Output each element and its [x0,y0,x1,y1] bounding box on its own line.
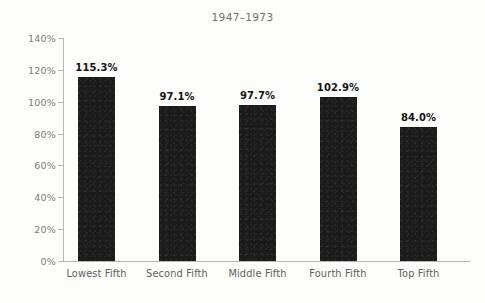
bar-value-label: 97.7% [218,90,298,101]
x-axis-category-label: Middle Fifth [213,268,303,279]
y-axis-tick-mark [58,261,63,262]
x-axis-line [63,261,470,262]
y-axis-tick-mark [58,165,63,166]
y-axis-tick-label: 100% [10,96,56,107]
bar [400,127,437,261]
y-axis-tick-mark [58,38,63,39]
bar [159,106,196,261]
y-axis-tick-mark [58,197,63,198]
bar [239,105,276,261]
bar-value-label: 115.3% [57,62,137,73]
x-axis-category-label: Top Fifth [374,268,464,279]
y-axis-tick-label: 140% [10,33,56,44]
bar [320,97,357,261]
y-axis-tick-label: 40% [10,192,56,203]
x-axis-category-label: Lowest Fifth [52,268,142,279]
y-axis-tick-label: 60% [10,160,56,171]
y-axis-tick-mark [58,102,63,103]
bar-chart: 1947–1973 0%20%40%60%80%100%120%140% 115… [0,0,485,303]
bar-value-label: 84.0% [379,112,459,123]
y-axis-tick-mark [58,134,63,135]
bar [78,77,115,261]
y-axis-tick-label: 0% [10,256,56,267]
y-axis-tick-label: 120% [10,64,56,75]
x-axis-category-label: Fourth Fifth [293,268,383,279]
plot-area: 0%20%40%60%80%100%120%140% 115.3%97.1%97… [0,0,485,303]
y-axis-tick-label: 20% [10,224,56,235]
y-axis-tick-mark [58,229,63,230]
x-axis-category-label: Second Fifth [132,268,222,279]
bar-value-label: 97.1% [137,91,217,102]
bar-value-label: 102.9% [298,82,378,93]
y-axis-tick-label: 80% [10,128,56,139]
